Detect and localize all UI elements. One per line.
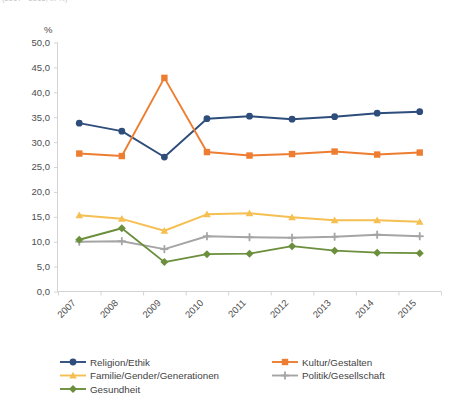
data-point-marker xyxy=(289,151,295,157)
data-point-marker xyxy=(416,232,424,240)
legend-marker-icon xyxy=(69,385,77,393)
y-tick-label: 35,0 xyxy=(32,112,51,123)
data-point-marker xyxy=(76,150,82,156)
series-familie-gender-generationen xyxy=(75,210,423,234)
chart-container: (2007 - 2015, in %) % 0,05,010,015,020,0… xyxy=(0,0,449,395)
data-point-marker xyxy=(76,120,83,127)
y-tick-label: 25,0 xyxy=(32,161,51,172)
y-axis-unit-label: % xyxy=(44,24,52,35)
legend-item-familie-gender-generationen[interactable]: Familie/Gender/Generationen xyxy=(60,370,219,381)
legend-marker-icon xyxy=(282,359,288,365)
data-point-marker xyxy=(246,152,252,158)
y-tick-label: 10,0 xyxy=(32,236,51,247)
chart-legend: Religion/EthikKultur/GestaltenFamilie/Ge… xyxy=(60,357,385,395)
x-tick-label: 2007 xyxy=(55,297,78,320)
y-tick-label: 0,0 xyxy=(37,286,50,297)
data-point-marker xyxy=(373,249,381,257)
legend-item-label: Familie/Gender/Generationen xyxy=(90,370,219,381)
y-tick-label: 20,0 xyxy=(32,186,51,197)
x-axis-label-layer: 200720082009201020112012201320142015 xyxy=(55,297,418,320)
legend-item-label: Religion/Ethik xyxy=(90,357,150,368)
data-point-marker xyxy=(118,128,125,135)
y-tick-label: 40,0 xyxy=(32,87,51,98)
x-tick-label: 2014 xyxy=(353,297,376,320)
data-point-marker xyxy=(161,75,167,81)
data-point-marker xyxy=(417,149,423,155)
legend-item-politik-gesellschaft[interactable]: Politik/Gesellschaft xyxy=(272,370,385,381)
data-point-marker xyxy=(204,115,211,122)
data-point-marker xyxy=(331,113,338,120)
data-point-marker xyxy=(118,237,126,245)
line-chart-plot: 0,05,010,015,020,025,030,035,040,045,050… xyxy=(0,0,449,395)
legend-marker-icon xyxy=(70,359,77,366)
data-point-marker xyxy=(119,153,125,159)
data-point-marker xyxy=(373,231,381,239)
legend-item-religion-ethik[interactable]: Religion/Ethik xyxy=(60,357,150,368)
data-point-marker xyxy=(416,249,424,257)
legend-item-kultur-gestalten[interactable]: Kultur/Gestalten xyxy=(272,357,372,368)
y-tick-label: 45,0 xyxy=(32,62,51,73)
data-point-marker xyxy=(161,154,168,161)
x-tick-label: 2013 xyxy=(310,297,333,320)
data-point-marker xyxy=(289,116,296,123)
data-point-marker xyxy=(246,250,254,258)
legend-item-label: Gesundheit xyxy=(90,384,140,395)
data-point-marker xyxy=(203,232,211,240)
data-point-marker xyxy=(374,110,381,117)
x-tick-label: 2015 xyxy=(395,297,418,320)
data-point-marker xyxy=(288,234,296,242)
y-tick-label: 15,0 xyxy=(32,211,51,222)
data-point-marker xyxy=(416,108,423,115)
data-point-marker xyxy=(246,233,254,241)
data-point-marker xyxy=(331,233,339,241)
legend-item-label: Politik/Gesellschaft xyxy=(302,370,385,381)
x-tick-label: 2010 xyxy=(183,297,206,320)
y-tick-label: 30,0 xyxy=(32,137,51,148)
legend-marker-icon xyxy=(281,372,289,380)
series-gesundheit xyxy=(75,224,423,266)
data-point-marker xyxy=(331,247,339,255)
data-point-marker xyxy=(331,148,337,154)
x-tick-label: 2012 xyxy=(268,297,291,320)
data-point-marker xyxy=(204,149,210,155)
x-tick-label: 2009 xyxy=(140,297,163,320)
y-tick-label: 50,0 xyxy=(32,37,51,48)
legend-item-gesundheit[interactable]: Gesundheit xyxy=(60,384,140,395)
data-point-marker xyxy=(288,242,296,250)
y-axis-ticks: 0,05,010,015,020,025,030,035,040,045,050… xyxy=(32,37,59,297)
data-point-marker xyxy=(374,151,380,157)
x-axis-ticks xyxy=(59,292,442,296)
chart-supertitle: (2007 - 2015, in %) xyxy=(2,0,68,3)
data-point-marker xyxy=(246,113,253,120)
data-series-layer xyxy=(75,75,423,266)
data-point-marker xyxy=(203,250,211,258)
legend-item-label: Kultur/Gestalten xyxy=(302,357,372,368)
y-tick-label: 5,0 xyxy=(37,261,50,272)
x-tick-label: 2011 xyxy=(226,297,248,319)
data-point-marker xyxy=(160,245,168,253)
x-tick-label: 2008 xyxy=(98,297,121,320)
